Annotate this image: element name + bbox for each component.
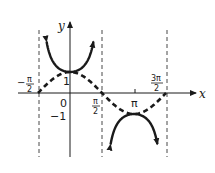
y-tick-1-label: 1 [63, 75, 70, 88]
svg-text:π: π [27, 75, 32, 84]
three-pi-half-label: 3π 2 [151, 74, 163, 93]
x-axis-label: x [199, 87, 206, 101]
svg-text:π: π [93, 97, 98, 106]
svg-text:2: 2 [93, 107, 98, 116]
pi-label: π [131, 97, 138, 110]
svg-text:2: 2 [27, 85, 32, 94]
secant-branch-lower [111, 114, 158, 145]
origin-label: 0 [60, 97, 67, 110]
sec-cos-graph: y x 0 1 −1 π − π 2 π 2 3π 2 [0, 0, 215, 173]
svg-text:2: 2 [154, 84, 159, 93]
neg-pi-half-label: − π 2 [17, 75, 34, 94]
y-axis-label: y [57, 19, 65, 33]
y-tick-neg1-label: −1 [50, 110, 66, 123]
svg-text:3π: 3π [151, 74, 161, 83]
pi-half-label: π 2 [92, 97, 100, 116]
svg-text:−: − [17, 77, 25, 88]
